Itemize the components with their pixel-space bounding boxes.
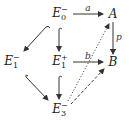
hook-arrow-e0-e1m xyxy=(24,26,50,51)
hook-arrow-e0-e1p xyxy=(59,28,62,51)
hook-arrow-e1m-e3m xyxy=(26,75,48,100)
node-e1-plus: E1+ xyxy=(52,54,68,70)
label-p: p xyxy=(116,32,122,42)
node-a: A xyxy=(109,8,118,20)
label-b: b xyxy=(85,51,91,61)
dashed-arrow-e3-b xyxy=(71,69,104,104)
node-e0-minus: E0− xyxy=(52,6,68,22)
hook-arrow-e1p-e3m xyxy=(59,76,62,99)
node-e1-minus: E1− xyxy=(4,54,20,70)
node-b: B xyxy=(109,56,118,68)
label-a: a xyxy=(85,3,90,13)
node-e3-minus: E3− xyxy=(52,102,68,118)
